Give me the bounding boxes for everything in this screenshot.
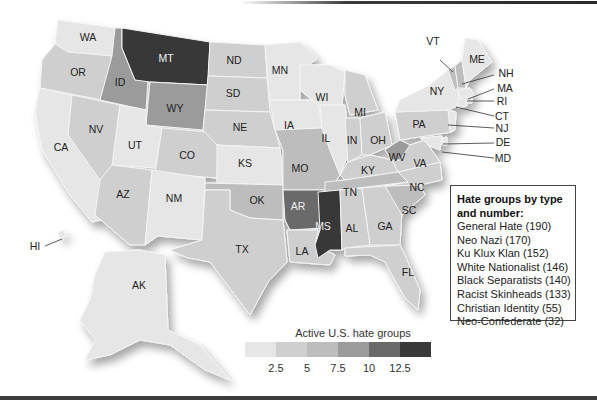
label-ND: ND [226, 54, 242, 66]
leader-CT [456, 107, 494, 116]
label-PA: PA [412, 118, 425, 130]
scale-tick: 10 [363, 362, 375, 374]
label-AK: AK [132, 279, 146, 291]
label-OH: OH [370, 134, 386, 146]
label-VA: VA [413, 157, 426, 169]
label-TX: TX [235, 243, 248, 255]
state-IA[interactable] [270, 100, 322, 130]
legend-item: Ku Klux Klan (152) [457, 247, 575, 261]
label-MT: MT [158, 52, 174, 64]
label-UT: UT [128, 139, 143, 151]
label-OK: OK [249, 194, 264, 206]
leader-MD [442, 152, 494, 158]
scale-tick: 7.5 [330, 362, 345, 374]
label-MA: MA [497, 82, 513, 94]
label-CO: CO [179, 149, 195, 161]
label-RI: RI [497, 95, 508, 107]
label-CA: CA [54, 141, 69, 153]
scale-swatch-4 [338, 342, 369, 357]
scale-swatch-6 [400, 342, 431, 357]
label-WA: WA [80, 31, 97, 43]
label-NH: NH [498, 67, 513, 79]
label-MN: MN [272, 64, 288, 76]
label-CT: CT [495, 110, 510, 122]
label-MS: MS [315, 220, 331, 232]
state-MA[interactable] [458, 88, 475, 98]
legend-title-line1: Hate groups by type [457, 192, 575, 206]
label-NC: NC [409, 181, 425, 193]
legend-item: White Nationalist (146) [457, 261, 575, 275]
label-TN: TN [343, 186, 357, 198]
label-AL: AL [346, 222, 359, 234]
label-IN: IN [347, 134, 358, 146]
color-scale [245, 342, 431, 357]
label-WV: WV [389, 151, 406, 163]
label-FL: FL [402, 266, 414, 278]
label-NM: NM [166, 192, 182, 204]
scale-swatch-3 [307, 342, 338, 357]
state-AK[interactable] [80, 250, 230, 380]
legend-item: Neo-Confederate (32) [457, 315, 575, 329]
label-ME: ME [469, 53, 485, 65]
label-MD: MD [495, 152, 512, 164]
scale-swatch-5 [369, 342, 400, 357]
scale-title-line1: Active U.S. hate groups [268, 326, 438, 340]
label-ID: ID [115, 76, 126, 88]
legend-item: Christian Identity (55) [457, 302, 575, 316]
label-DE: DE [496, 136, 511, 148]
scale-tick: 5 [304, 362, 310, 374]
label-SC: SC [402, 204, 417, 216]
scale-tick: 2.5 [268, 362, 283, 374]
state-NJ[interactable] [448, 110, 456, 132]
label-LA: LA [296, 245, 309, 257]
state-HI[interactable] [58, 230, 66, 238]
label-MO: MO [292, 162, 309, 174]
label-IA: IA [284, 119, 294, 131]
legend-item: Racist Skinheads (133) [457, 288, 575, 302]
label-NE: NE [233, 121, 248, 133]
scale-swatch-2 [276, 342, 307, 357]
label-NJ: NJ [496, 122, 509, 134]
state-NM[interactable] [145, 170, 205, 245]
leader-HI [45, 239, 62, 246]
label-WI: WI [316, 91, 329, 103]
label-KS: KS [238, 157, 252, 169]
legend-item: Neo Nazi (170) [457, 234, 575, 248]
scale-swatch-1 [245, 342, 276, 357]
hate-group-types-legend: Hate groups by type and number: General … [450, 185, 576, 321]
color-scale-ticks: 2.5 5 7.5 10 12.5 [245, 362, 435, 376]
label-NV: NV [89, 123, 104, 135]
leader-VT [440, 60, 453, 72]
label-HI: HI [30, 240, 41, 252]
label-VT: VT [426, 35, 440, 47]
legend-title-line2: and number: [457, 206, 575, 220]
label-SD: SD [226, 87, 241, 99]
legend-item: General Hate (190) [457, 220, 575, 234]
legend-item: Black Separatists (140) [457, 274, 575, 288]
label-WY: WY [167, 102, 184, 114]
label-AR: AR [291, 200, 306, 212]
label-GA: GA [377, 220, 392, 232]
state-AZ[interactable] [95, 165, 152, 245]
label-KY: KY [361, 164, 375, 176]
label-NY: NY [430, 85, 445, 97]
label-AZ: AZ [116, 188, 130, 200]
label-IL: IL [322, 132, 331, 144]
label-MI: MI [354, 106, 366, 118]
leader-DE [443, 143, 494, 144]
state-CT[interactable] [458, 99, 467, 108]
label-OR: OR [70, 66, 86, 78]
scale-tick: 12.5 [389, 362, 410, 374]
bottom-rule [0, 396, 597, 400]
